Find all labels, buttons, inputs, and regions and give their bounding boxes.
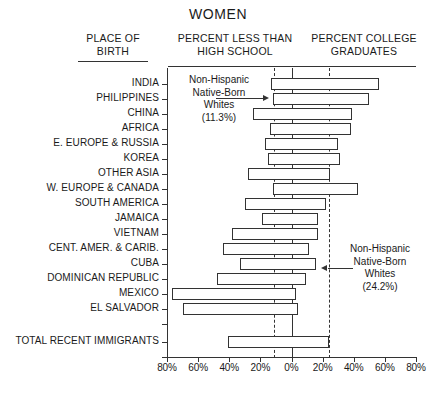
annotation-right-line2: Native-Born xyxy=(330,256,430,269)
category-axis-tick xyxy=(162,279,167,280)
category-label: KOREA xyxy=(0,152,163,163)
annotation-left-line4: (11.3%) xyxy=(176,112,262,125)
category-axis-tick xyxy=(162,204,167,205)
x-axis-tick-label: 60% xyxy=(368,362,402,373)
header-less-line2: HIGH SCHOOL xyxy=(168,45,302,58)
annotation-native-born-whites-high-school: Non-Hispanic Native-Born Whites (11.3%) xyxy=(176,74,262,124)
category-label: PHILIPPINES xyxy=(0,92,163,103)
category-label: DOMINICAN REPUBLIC xyxy=(0,272,163,283)
x-axis-tick-label: 40% xyxy=(212,362,246,373)
x-axis-tick-label: 80% xyxy=(399,362,433,373)
annotation-right-arrow-line xyxy=(328,268,353,269)
category-label: CHINA xyxy=(0,107,163,118)
category-axis-tick xyxy=(162,234,167,235)
header-college-line2: GRADUATES xyxy=(300,45,428,58)
header-place-line2: BIRTH xyxy=(58,45,168,58)
bar xyxy=(228,336,329,348)
x-axis-tick-label: 20% xyxy=(243,362,277,373)
category-label: CUBA xyxy=(0,257,163,268)
category-axis-tick xyxy=(162,357,167,358)
category-axis xyxy=(167,68,168,358)
category-label: EL SALVADOR xyxy=(0,302,163,313)
category-axis-tick xyxy=(162,129,167,130)
header-college-line1: PERCENT COLLEGE xyxy=(300,32,428,45)
category-axis-tick xyxy=(162,189,167,190)
bar xyxy=(253,108,353,120)
column-header-less-than-high-school: PERCENT LESS THAN HIGH SCHOOL xyxy=(168,32,302,57)
annotation-right-line3: Whites xyxy=(330,268,430,281)
category-axis-tick xyxy=(162,114,167,115)
x-axis-tick-label: 60% xyxy=(181,362,215,373)
header-less-line1: PERCENT LESS THAN xyxy=(168,32,302,45)
category-label: INDIA xyxy=(0,77,163,88)
category-label: JAMAICA xyxy=(0,212,163,223)
category-axis-tick xyxy=(162,174,167,175)
category-axis-tick xyxy=(162,159,167,160)
chart-title: WOMEN xyxy=(0,6,436,22)
category-axis-tick xyxy=(162,219,167,220)
x-axis-tick-label: 0% xyxy=(275,362,309,373)
header-place-line1: PLACE OF xyxy=(58,32,168,45)
bar xyxy=(262,213,318,225)
category-axis-tick xyxy=(162,309,167,310)
bar xyxy=(270,123,351,135)
category-axis-tick xyxy=(162,144,167,145)
category-axis-tick xyxy=(162,342,167,343)
annotation-left-arrow-line xyxy=(216,98,264,99)
bar xyxy=(172,288,297,300)
bar xyxy=(232,228,318,240)
category-axis-tick xyxy=(162,249,167,250)
category-label: TOTAL RECENT IMMIGRANTS xyxy=(0,335,163,346)
annotation-right-line4: (24.2%) xyxy=(330,281,430,294)
bar xyxy=(273,183,359,195)
category-label: OTHER ASIA xyxy=(0,167,163,178)
header-underline-place xyxy=(78,61,148,62)
x-axis-tick-label: 20% xyxy=(306,362,340,373)
column-header-place-of-birth: PLACE OF BIRTH xyxy=(58,32,168,57)
bar xyxy=(183,303,298,315)
category-label: SOUTH AMERICA xyxy=(0,197,163,208)
bar xyxy=(240,258,316,270)
x-axis-tick-label: 40% xyxy=(337,362,371,373)
bar xyxy=(248,168,330,180)
category-axis-tick xyxy=(162,324,167,325)
bar xyxy=(271,78,378,90)
category-label-column: INDIAPHILIPPINESCHINAAFRICAE. EUROPE & R… xyxy=(0,68,163,358)
bar xyxy=(245,198,326,210)
column-header-college-graduates: PERCENT COLLEGE GRADUATES xyxy=(300,32,428,57)
annotation-right-arrow-head-icon xyxy=(321,265,327,271)
annotation-left-arrow-head-icon xyxy=(263,95,269,101)
header-underline-plot xyxy=(168,66,416,67)
category-label: MEXICO xyxy=(0,287,163,298)
annotation-left-line3: Whites xyxy=(176,99,262,112)
category-axis-tick xyxy=(162,294,167,295)
annotation-right-line1: Non-Hispanic xyxy=(330,243,430,256)
category-label: VIETNAM xyxy=(0,227,163,238)
bar xyxy=(273,93,369,105)
category-axis-tick xyxy=(162,264,167,265)
annotation-left-line1: Non-Hispanic xyxy=(176,74,262,87)
bar xyxy=(268,153,340,165)
category-label: CENT. AMER. & CARIB. xyxy=(0,242,163,253)
category-label: E. EUROPE & RUSSIA xyxy=(0,137,163,148)
chart-root: WOMEN PLACE OF BIRTH PERCENT LESS THAN H… xyxy=(0,0,436,414)
category-axis-tick xyxy=(162,84,167,85)
bar xyxy=(223,243,309,255)
x-axis-tick-label: 80% xyxy=(150,362,184,373)
bar xyxy=(265,138,338,150)
category-label: AFRICA xyxy=(0,122,163,133)
bar xyxy=(217,273,306,285)
category-axis-tick xyxy=(162,99,167,100)
category-label: W. EUROPE & CANADA xyxy=(0,182,163,193)
